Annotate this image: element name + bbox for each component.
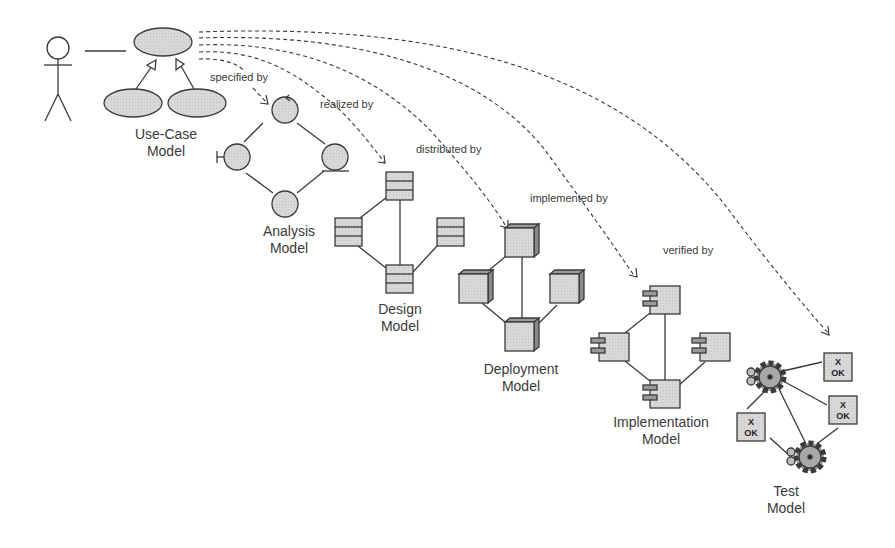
arc-verified-by — [199, 31, 828, 333]
node-icon — [459, 270, 493, 303]
node-icon — [505, 224, 539, 257]
component-icon — [692, 333, 730, 361]
svg-text:OK: OK — [744, 428, 758, 438]
use-case-model: Use-Case Model — [44, 28, 226, 159]
actor-icon — [44, 37, 72, 121]
boundary-class-icon — [224, 144, 250, 170]
model-relationships-diagram: Use-Case Model specified by realized by … — [0, 0, 895, 548]
component-icon — [591, 333, 629, 361]
entity-class-icon — [322, 144, 348, 170]
implementation-model: Implementation Model — [591, 286, 730, 447]
node-icon — [505, 318, 539, 351]
use-case-ellipse-left — [104, 89, 162, 117]
analysis-links — [244, 123, 325, 193]
deployment-model-subtitle: Model — [502, 378, 540, 394]
analysis-model: Analysis Model — [217, 95, 349, 256]
test-case-icon: X OK — [824, 353, 852, 381]
arrowheads — [260, 95, 829, 335]
deployment-model-title: Deployment — [484, 361, 559, 377]
label-implemented-by: implemented by — [530, 192, 608, 204]
label-specified-by: specified by — [210, 71, 269, 83]
test-component-gear-icon — [747, 363, 784, 391]
design-model: Design Model — [335, 172, 464, 334]
class-icon — [335, 218, 362, 246]
design-model-title: Design — [378, 301, 422, 317]
control-class-icon — [272, 97, 298, 123]
svg-text:OK: OK — [836, 411, 850, 421]
implementation-model-subtitle: Model — [642, 431, 680, 447]
test-component-gear-icon — [787, 443, 824, 471]
svg-text:X: X — [835, 357, 841, 367]
use-case-model-title: Use-Case — [135, 126, 197, 142]
dependency-arcs — [199, 31, 828, 333]
design-model-subtitle: Model — [381, 318, 419, 334]
component-icon — [643, 286, 680, 314]
label-verified-by: verified by — [663, 244, 714, 256]
use-case-ellipse-right — [168, 89, 226, 117]
design-links — [358, 197, 437, 272]
test-model-title: Test — [773, 483, 799, 499]
test-model-subtitle: Model — [767, 500, 805, 516]
svg-text:X: X — [840, 400, 846, 410]
label-realized-by: realized by — [320, 98, 374, 110]
node-icon — [550, 270, 584, 303]
label-distributed-by: distributed by — [416, 143, 482, 155]
analysis-model-title: Analysis — [263, 223, 315, 239]
class-icon — [386, 172, 413, 200]
implementation-model-title: Implementation — [613, 414, 709, 430]
deployment-model: Deployment Model — [459, 224, 584, 394]
generalization-arrow — [136, 59, 194, 89]
svg-text:OK: OK — [831, 368, 845, 378]
component-icon — [643, 380, 680, 408]
analysis-model-subtitle: Model — [270, 240, 308, 256]
use-case-ellipse-top — [134, 28, 192, 56]
svg-text:X: X — [748, 417, 754, 427]
use-case-model-subtitle: Model — [147, 143, 185, 159]
class-icon — [386, 265, 413, 293]
class-icon — [437, 218, 464, 246]
analysis-class-icon — [272, 191, 298, 217]
test-case-icon: X OK — [829, 396, 857, 424]
test-model: X OK X OK X OK Test Model — [737, 353, 857, 516]
test-case-icon: X OK — [737, 413, 765, 441]
